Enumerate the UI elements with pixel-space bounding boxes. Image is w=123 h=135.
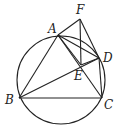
label-point-E: E bbox=[73, 69, 83, 83]
segment-AF bbox=[58, 19, 80, 35]
segment-ED bbox=[81, 58, 99, 65]
segments bbox=[19, 19, 102, 98]
label-point-D: D bbox=[102, 51, 113, 65]
label-point-A: A bbox=[47, 22, 57, 36]
geometry-diagram: AFDEBC bbox=[0, 0, 123, 135]
segment-FE bbox=[80, 19, 81, 65]
label-point-B: B bbox=[4, 93, 14, 107]
label-point-C: C bbox=[104, 98, 113, 112]
label-point-F: F bbox=[75, 3, 85, 17]
